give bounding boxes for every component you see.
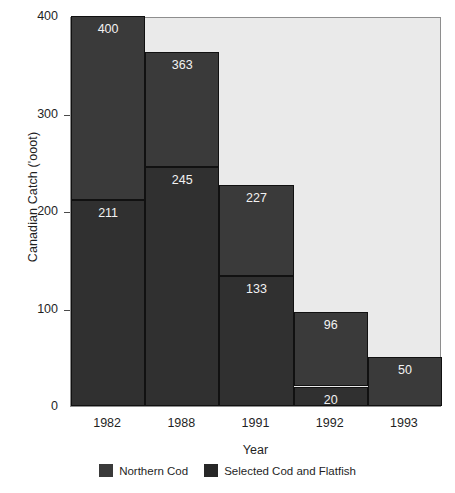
- bar-segment-total[interactable]: 400: [71, 16, 145, 200]
- y-tick-label: 300: [0, 107, 58, 121]
- x-tick-label: 1982: [70, 416, 144, 430]
- chart-legend: Northern CodSelected Cod and Flatfish: [0, 464, 455, 477]
- x-tick-label: 1988: [144, 416, 218, 430]
- legend-item[interactable]: Selected Cod and Flatfish: [204, 464, 356, 477]
- bar-chart: Canadian Catch ('ooot) 0100200300400 400…: [0, 0, 455, 493]
- legend-label: Selected Cod and Flatfish: [224, 465, 356, 477]
- bar-column[interactable]: 363245: [145, 16, 219, 406]
- bar-segment-lower[interactable]: 20: [294, 387, 368, 407]
- bar-segment-total[interactable]: 227: [219, 185, 293, 277]
- plot-area: 400211363245227133962050: [70, 17, 441, 407]
- bar-segment-lower[interactable]: 133: [219, 276, 293, 406]
- bar-value-label: 133: [220, 282, 292, 296]
- x-tick-label: 1991: [218, 416, 292, 430]
- bar-value-label: 227: [220, 191, 292, 205]
- bar-value-label: 400: [72, 22, 144, 36]
- y-tick-label: 0: [0, 399, 58, 413]
- legend-item[interactable]: Northern Cod: [99, 464, 188, 477]
- bar-segment-total[interactable]: 96: [294, 312, 368, 386]
- bar-value-label: 245: [146, 173, 218, 187]
- bar-value-label: 20: [295, 393, 367, 407]
- x-tick-label: 1992: [293, 416, 367, 430]
- bar-value-label: 96: [295, 318, 367, 332]
- y-tick-label: 100: [0, 302, 58, 316]
- bar-column[interactable]: 50: [368, 16, 442, 406]
- legend-label: Northern Cod: [119, 465, 188, 477]
- bar-value-label: 363: [146, 58, 218, 72]
- bar-column[interactable]: 400211: [71, 16, 145, 406]
- y-tick-label: 400: [0, 9, 58, 23]
- bar-segment-lower[interactable]: 211: [71, 200, 145, 406]
- legend-swatch-icon: [204, 464, 218, 477]
- bar-segment-total[interactable]: 363: [145, 52, 219, 167]
- x-tick-label: 1993: [367, 416, 441, 430]
- bar-segment-total[interactable]: 50: [368, 357, 442, 406]
- bar-segment-lower[interactable]: 245: [145, 167, 219, 406]
- bar-column[interactable]: 9620: [294, 16, 368, 406]
- y-tick-label: 200: [0, 204, 58, 218]
- legend-swatch-icon: [99, 464, 113, 477]
- bar-column[interactable]: 227133: [219, 16, 293, 406]
- bar-value-label: 50: [369, 363, 441, 377]
- x-axis-title: Year: [70, 443, 441, 457]
- bar-value-label: 211: [72, 206, 144, 220]
